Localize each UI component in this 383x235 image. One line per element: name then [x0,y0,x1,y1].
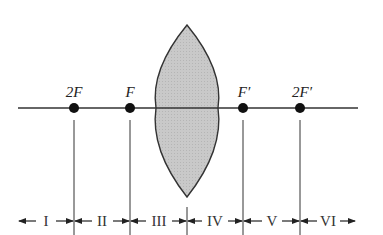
lens-diagram: 2F F F′ 2F′ I II III IV V VI [0,0,383,235]
region-label-V: V [267,213,278,229]
region-label-VI: VI [320,213,336,229]
label-2F-prime: 2F′ [292,84,313,100]
label-F-prime: F′ [237,84,251,100]
region-label-I: I [44,213,49,229]
region-label-IV: IV [207,213,223,229]
label-2F: 2F [66,84,84,100]
region-label-III: III [152,213,167,229]
region-label-II: II [97,213,107,229]
converging-lens [155,25,219,197]
label-F: F [124,84,135,100]
focal-point-F: F [124,84,135,113]
